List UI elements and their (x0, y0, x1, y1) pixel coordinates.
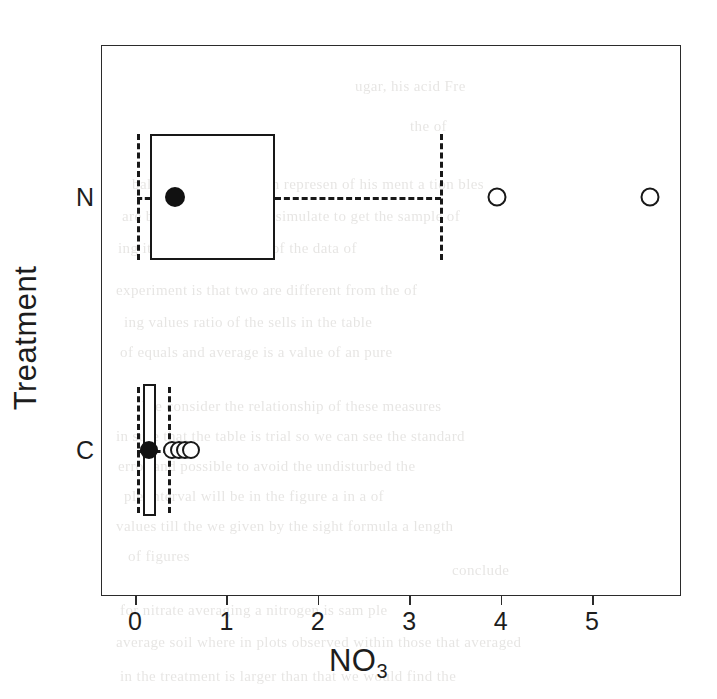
x-axis-tick (318, 596, 320, 605)
x-axis-tick-label: 2 (311, 607, 325, 636)
x-axis-label-subscript: 3 (376, 660, 388, 682)
x-axis-tick-label: 4 (494, 607, 508, 636)
box-n-outlier-point (641, 188, 660, 207)
box-c-outlier-point (182, 441, 200, 459)
x-axis-tick (226, 596, 228, 605)
box-n-mean-dot (165, 187, 185, 207)
plot-frame (101, 45, 681, 596)
x-axis-tick (135, 596, 137, 605)
x-axis-label-base: NO (329, 643, 377, 678)
box-n-upper-whisker-line (275, 197, 441, 200)
x-axis-tick-label: 1 (219, 607, 233, 636)
y-axis-tick-label: N (76, 183, 94, 212)
box-n-upper-whisker-cap (440, 134, 443, 260)
box-c-mean-dot (140, 441, 158, 459)
x-axis-tick (409, 596, 411, 605)
x-axis-tick-label: 5 (585, 607, 599, 636)
box-n-lower-whisker-line (137, 197, 150, 200)
x-axis-tick-label: 0 (128, 607, 142, 636)
x-axis-label: NO3 (0, 643, 717, 683)
x-axis-tick-label: 3 (402, 607, 416, 636)
y-axis-tick-label: C (76, 436, 94, 465)
y-axis-label: Treatment (8, 228, 44, 448)
boxplot-figure: 012345 NC NO3 Treatment (0, 0, 717, 699)
x-axis-tick (501, 596, 503, 605)
box-n-outlier-point (488, 188, 507, 207)
x-axis-tick (592, 596, 594, 605)
